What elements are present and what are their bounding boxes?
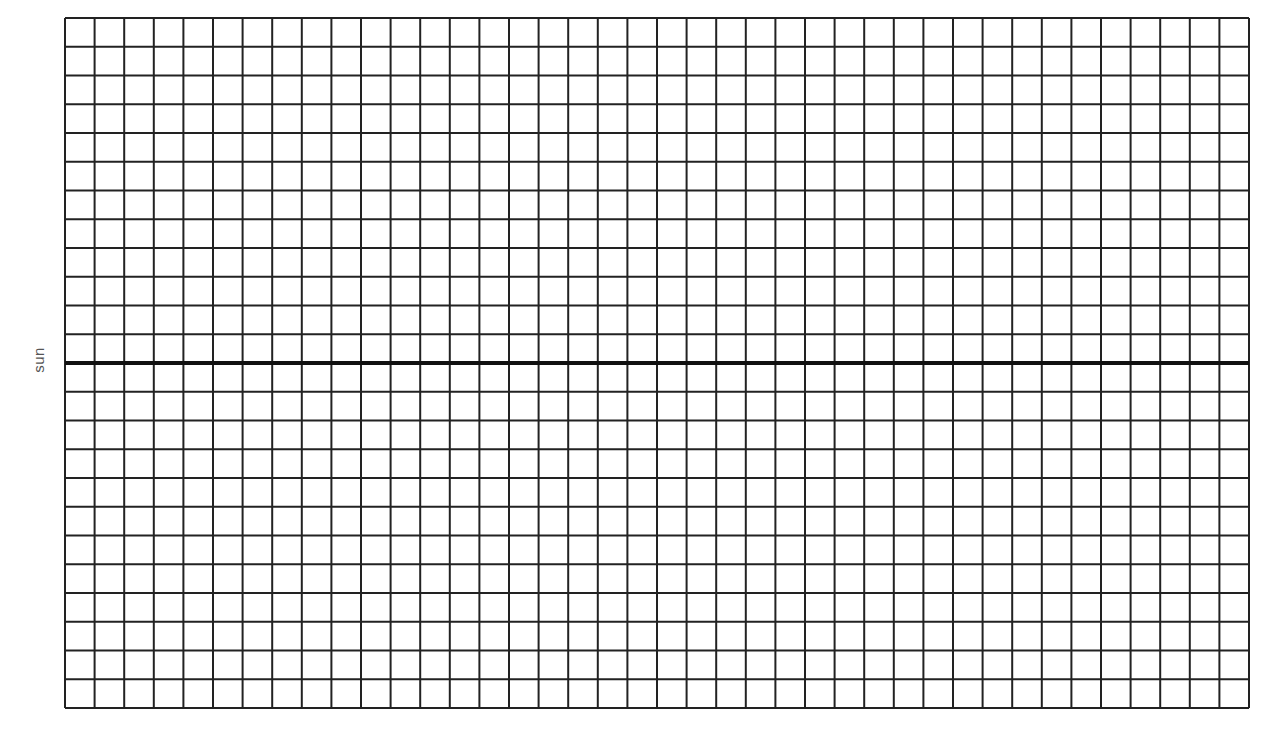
grid-lines <box>65 18 1249 708</box>
y-axis-label: sun <box>30 347 47 373</box>
graph-grid <box>65 18 1249 708</box>
